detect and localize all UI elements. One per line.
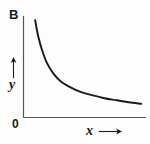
right-arrow-icon	[99, 129, 122, 135]
plot-area	[0, 0, 150, 144]
up-arrow-icon	[11, 57, 17, 78]
inverse-proportion-graph-figure: B 0 y x	[0, 0, 150, 144]
origin-label: 0	[12, 118, 19, 130]
y-axis-label: y	[9, 78, 15, 92]
data-curve	[35, 20, 141, 104]
top-left-marker-label: B	[9, 8, 18, 21]
x-axis-label: x	[86, 124, 93, 138]
